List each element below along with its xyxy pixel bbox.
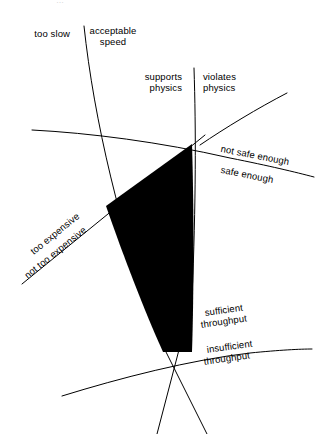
upper-right-boundary-curve <box>200 93 287 145</box>
label-violates-physics-line2: physics <box>203 82 273 94</box>
feasible-solution-region <box>106 144 194 352</box>
label-violates-physics-line1: violates <box>203 71 273 83</box>
diagram-root: … too slow acceptable speed supports phy… <box>0 0 330 434</box>
throughput-boundary-curve <box>62 349 312 396</box>
label-too-slow: too slow <box>4 28 70 40</box>
label-supports-physics-line2: physics <box>116 82 182 94</box>
label-acceptable-speed-line2: speed <box>76 36 150 48</box>
label-acceptable-speed-line1: acceptable <box>76 25 150 37</box>
label-supports-physics-line1: supports <box>116 71 182 83</box>
diagram-canvas <box>0 0 330 434</box>
